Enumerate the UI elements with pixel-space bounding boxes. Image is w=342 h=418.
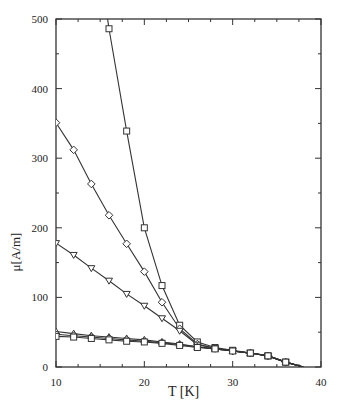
diamond-marker <box>141 268 149 276</box>
diamond-marker <box>105 211 113 219</box>
square-marker <box>194 345 200 351</box>
triangle-down-marker <box>106 278 113 284</box>
plot-frame <box>56 19 321 367</box>
series-line <box>109 29 303 367</box>
y-axis-label: μ[A/m] <box>8 222 24 282</box>
x-axis-label: T [K] <box>168 384 199 400</box>
diamond-marker <box>52 119 60 127</box>
square-marker <box>106 337 112 343</box>
y-tick-label: 500 <box>32 13 49 25</box>
square-marker <box>71 334 77 340</box>
square-marker <box>141 339 147 345</box>
square-marker <box>141 225 147 231</box>
square-marker <box>230 348 236 354</box>
triangle-down-marker <box>53 241 60 247</box>
square-marker <box>88 335 94 341</box>
square-marker <box>106 26 112 32</box>
square-marker <box>247 350 253 356</box>
triangle-down-marker <box>70 252 77 258</box>
square-marker <box>124 338 130 344</box>
chart: 102030400100200300400500 μ[A/m] T [K] <box>0 0 342 418</box>
diamond-marker <box>70 146 78 154</box>
y-tick-label: 100 <box>32 291 49 303</box>
x-tick-label: 20 <box>139 376 151 388</box>
series-line-extension <box>105 0 109 29</box>
triangle-down-marker <box>88 266 95 272</box>
square-marker <box>124 128 130 134</box>
triangle-down-marker <box>123 291 130 297</box>
x-tick-label: 40 <box>316 376 328 388</box>
diamond-marker <box>158 298 166 306</box>
plot-area: 102030400100200300400500 <box>0 0 342 418</box>
y-tick-label: 300 <box>32 152 49 164</box>
series-group <box>52 0 303 367</box>
diamond-marker <box>88 180 96 188</box>
square-marker <box>212 346 218 352</box>
x-tick-label: 30 <box>227 376 239 388</box>
x-tick-label: 10 <box>51 376 63 388</box>
square-marker <box>177 342 183 348</box>
square-marker <box>159 283 165 289</box>
square-marker <box>53 333 59 339</box>
diamond-marker <box>123 240 131 248</box>
y-tick-label: 0 <box>43 361 49 373</box>
square-marker <box>265 353 271 359</box>
square-marker <box>159 340 165 346</box>
triangle-down-marker <box>159 316 166 322</box>
triangle-down-marker <box>141 303 148 309</box>
y-tick-label: 400 <box>32 83 49 95</box>
square-marker <box>283 359 289 365</box>
y-tick-label: 200 <box>32 222 49 234</box>
